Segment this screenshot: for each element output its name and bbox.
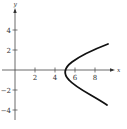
y-tick-label: 4	[7, 27, 12, 35]
x-axis-arrow-icon	[110, 68, 115, 71]
y-tick-label: −2	[1, 87, 11, 95]
chart: y x 2 4 6 8 4 2 −2 −4	[0, 0, 127, 129]
y-tick-label: 2	[7, 47, 11, 55]
x-tick-label: 2	[33, 74, 37, 82]
x-tick-label: 8	[93, 74, 97, 82]
y-axis-arrow-icon	[13, 8, 16, 13]
parabola-curve	[65, 44, 108, 105]
x-tick-label: 6	[73, 74, 78, 82]
y-axis-label: y	[13, 0, 18, 8]
y-tick-label: −4	[1, 107, 12, 115]
x-tick-label: 4	[53, 74, 58, 82]
x-axis-label: x	[117, 66, 121, 73]
